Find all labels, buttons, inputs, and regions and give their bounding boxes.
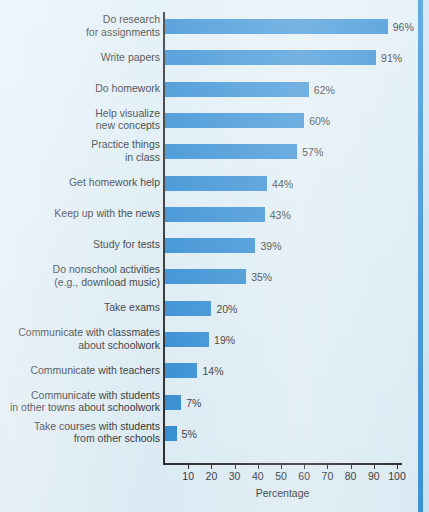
x-axis-tick-label: 100: [382, 470, 412, 482]
x-axis-tick: [281, 463, 282, 469]
bar-value-label: 14%: [202, 365, 223, 377]
bar-value-label: 44%: [272, 178, 293, 190]
bar-value-label: 20%: [216, 303, 237, 315]
bar-value-label: 96%: [393, 21, 414, 33]
x-axis-tick: [235, 463, 236, 469]
bar-value-label: 91%: [381, 52, 402, 64]
bar: [165, 50, 376, 65]
bar: [165, 113, 304, 128]
bar-category-label: Communicate with students in other towns…: [0, 389, 160, 414]
x-axis-tick: [327, 463, 328, 469]
bar-value-label: 7%: [186, 397, 201, 409]
bar-category-label: Get homework help: [0, 176, 160, 189]
x-axis-tick: [188, 463, 189, 469]
bar-category-label: Help visualize new concepts: [0, 107, 160, 132]
bar: [165, 426, 177, 441]
right-edge-margin: [423, 0, 429, 512]
bar-value-label: 19%: [214, 334, 235, 346]
x-axis-title: Percentage: [163, 487, 402, 499]
bar-category-label: Keep up with the news: [0, 207, 160, 220]
bar-category-label: Communicate with teachers: [0, 364, 160, 377]
bar-category-label: Do homework: [0, 82, 160, 95]
x-axis-tick: [304, 463, 305, 469]
bar-value-label: 35%: [251, 271, 272, 283]
bar: [165, 19, 388, 34]
bar-value-label: 5%: [182, 428, 197, 440]
bar: [165, 207, 265, 222]
bar-value-label: 57%: [302, 146, 323, 158]
x-axis-tick: [374, 463, 375, 469]
bar: [165, 395, 181, 410]
x-axis-tick: [397, 463, 398, 469]
bar: [165, 176, 267, 191]
x-axis-tick: [258, 463, 259, 469]
plot-area: Do research for assignments96%Write pape…: [0, 0, 429, 512]
bar-category-label: Do research for assignments: [0, 13, 160, 38]
bar: [165, 238, 255, 253]
bar-value-label: 43%: [270, 209, 291, 221]
x-axis-line: [163, 463, 402, 465]
bar: [165, 144, 297, 159]
x-axis-tick: [211, 463, 212, 469]
bar-value-label: 39%: [260, 240, 281, 252]
bar: [165, 269, 246, 284]
x-axis-tick: [351, 463, 352, 469]
bar-value-label: 62%: [314, 84, 335, 96]
bar: [165, 301, 211, 316]
bar-category-label: Study for tests: [0, 238, 160, 251]
bar: [165, 82, 309, 97]
bar-category-label: Take exams: [0, 301, 160, 314]
bar-chart-figure: Do research for assignments96%Write pape…: [0, 0, 429, 512]
bar-category-label: Communicate with classmates about school…: [0, 326, 160, 351]
bar-category-label: Do nonschool activities (e.g., download …: [0, 263, 160, 288]
bar-category-label: Write papers: [0, 51, 160, 64]
bar-category-label: Take courses with students from other sc…: [0, 420, 160, 445]
bar-value-label: 60%: [309, 115, 330, 127]
bar: [165, 332, 209, 347]
bar: [165, 363, 197, 378]
bar-category-label: Practice things in class: [0, 138, 160, 163]
